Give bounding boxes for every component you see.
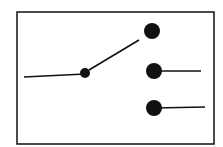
terminal-contact-1 <box>144 23 160 39</box>
switch-lever <box>89 40 139 70</box>
terminal-contact-2 <box>146 63 162 79</box>
switch-diagram <box>0 0 223 147</box>
input-wire <box>24 74 85 77</box>
terminal-contacts <box>144 23 205 116</box>
diagram-frame <box>17 12 214 144</box>
terminal-contact-3 <box>146 100 162 116</box>
pivot-contact <box>80 68 90 78</box>
